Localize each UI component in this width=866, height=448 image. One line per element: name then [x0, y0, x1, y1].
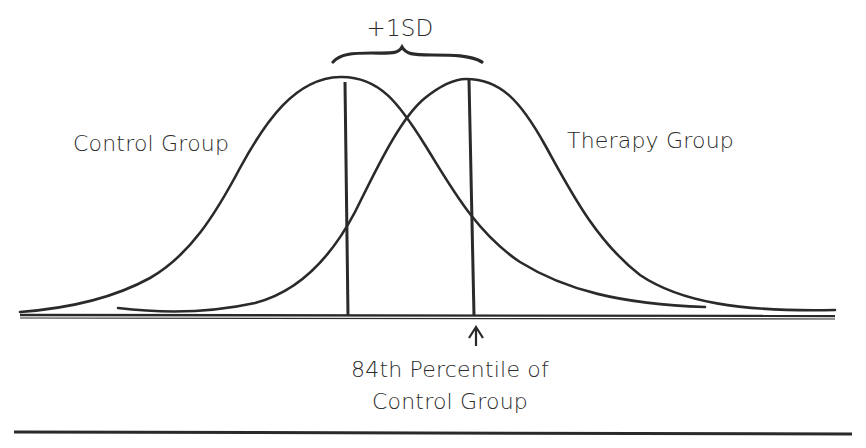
- sd-difference-label: +1SD: [0, 15, 800, 41]
- percentile-annotation: 84th Percentile of Control Group: [300, 354, 600, 418]
- percentile-annotation-line1: 84th Percentile of: [300, 354, 600, 386]
- curly-brace-icon: [333, 47, 482, 62]
- up-arrow-icon: [469, 327, 483, 346]
- bottom-rule: [14, 432, 852, 434]
- therapy-mean-line: [469, 80, 474, 316]
- control-group-label: Control Group: [73, 131, 229, 156]
- baseline-axis: [20, 315, 835, 316]
- therapy-group-label: Therapy Group: [567, 128, 734, 153]
- percentile-annotation-line2: Control Group: [300, 386, 600, 418]
- baseline-axis-lower: [20, 318, 835, 319]
- control-mean-line: [345, 82, 348, 316]
